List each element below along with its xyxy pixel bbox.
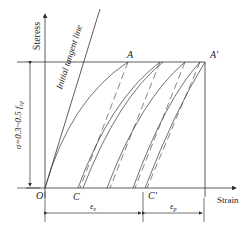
elastic-strain-label: εe [90,201,97,212]
strain-dimensions [45,192,204,222]
origin-label: O [36,190,43,201]
cycle-curve-1 [78,62,160,188]
stress-strain-diagram: Steress Strain Initial tangent line O A … [0,0,249,232]
y-axis-label: Steress [31,22,42,50]
point-a-prime-label: A' [209,49,219,60]
cycle-curve-4 [145,62,205,188]
x-axis-label: Strain [217,195,239,205]
stress-range-label: σ=0.3~0.5 fcp [13,101,24,149]
plastic-strain-label: εp [170,201,177,212]
point-a-label: A [126,49,134,60]
point-c-label: C [73,191,80,202]
point-c-prime-label: C' [148,190,158,201]
loading-curves [45,62,205,188]
axes [26,14,236,198]
tangent-line-label: Initial tangent line [54,24,85,92]
